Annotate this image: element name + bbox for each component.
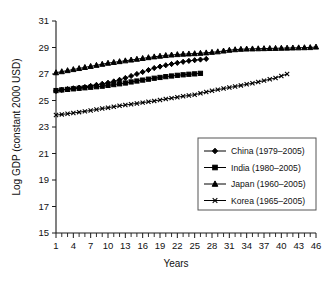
marker-square xyxy=(198,71,202,75)
marker-triangle xyxy=(152,54,157,59)
marker-square xyxy=(175,73,179,77)
marker-triangle xyxy=(290,45,295,50)
marker-diamond xyxy=(152,65,157,70)
marker-square xyxy=(89,85,93,89)
x-axis-tick-label: 25 xyxy=(189,240,200,251)
marker-square xyxy=(129,80,133,84)
marker-triangle xyxy=(302,45,307,50)
marker-diamond xyxy=(175,60,180,65)
marker-triangle xyxy=(157,53,162,58)
y-axis-tick-label: 21 xyxy=(38,148,49,159)
y-axis-tick-label: 29 xyxy=(38,42,49,53)
marker-square xyxy=(100,84,104,88)
marker-diamond xyxy=(134,71,139,76)
x-axis-tick-label: 7 xyxy=(88,240,93,251)
legend-item-label: China (1979–2005) xyxy=(231,146,305,156)
marker-triangle xyxy=(256,46,261,51)
marker-triangle xyxy=(163,53,168,58)
y-axis-label: Log GDP (constant 2000 USD) xyxy=(11,58,22,195)
y-axis-tick-label: 31 xyxy=(38,15,49,26)
marker-triangle xyxy=(82,64,87,69)
series-india xyxy=(54,71,203,92)
y-axis-tick-label: 17 xyxy=(38,201,49,212)
marker-triangle xyxy=(273,45,278,50)
series-line xyxy=(56,74,287,115)
marker-triangle xyxy=(250,46,255,51)
marker-triangle xyxy=(59,69,64,74)
marker-triangle xyxy=(169,52,174,57)
marker-diamond xyxy=(192,58,197,63)
x-axis-tick-label: 40 xyxy=(276,240,287,251)
marker-diamond xyxy=(158,64,163,69)
marker-square xyxy=(169,74,173,78)
marker-diamond xyxy=(123,75,128,80)
marker-triangle xyxy=(105,60,110,65)
x-axis-tick-label: 1 xyxy=(53,240,58,251)
marker-triangle xyxy=(53,70,58,75)
marker-square xyxy=(117,82,121,86)
marker-triangle xyxy=(221,48,226,53)
marker-square xyxy=(54,88,58,92)
marker-square xyxy=(123,81,127,85)
marker-square xyxy=(164,75,168,79)
y-axis-tick-label: 19 xyxy=(38,174,49,185)
marker-square xyxy=(141,78,145,82)
x-axis-tick-label: 19 xyxy=(155,240,166,251)
marker-triangle xyxy=(227,47,232,52)
x-axis-tick-label: 28 xyxy=(207,240,218,251)
marker-square xyxy=(112,83,116,87)
marker-triangle xyxy=(279,45,284,50)
marker-triangle xyxy=(123,58,128,63)
y-axis-tick-label: 25 xyxy=(38,95,49,106)
marker-square xyxy=(158,75,162,79)
chart-container: 1517192123252729311471013161922252831343… xyxy=(0,0,328,282)
marker-triangle xyxy=(313,44,318,49)
marker-square xyxy=(83,86,87,90)
marker-triangle xyxy=(100,61,105,66)
x-axis-tick-label: 16 xyxy=(137,240,148,251)
x-axis-tick-label: 31 xyxy=(224,240,235,251)
marker-diamond xyxy=(129,73,134,78)
marker-triangle xyxy=(175,52,180,57)
series-korea xyxy=(54,72,289,117)
marker-square xyxy=(71,87,75,91)
marker-diamond xyxy=(181,59,186,64)
marker-triangle xyxy=(71,67,76,72)
marker-triangle xyxy=(111,59,116,64)
marker-triangle xyxy=(209,49,214,54)
marker-square xyxy=(152,76,156,80)
chart-legend: China (1979–2005)India (1980–2005)Japan … xyxy=(198,138,316,210)
y-axis-tick-label: 23 xyxy=(38,121,49,132)
marker-triangle xyxy=(198,50,203,55)
x-axis-tick-label: 34 xyxy=(241,240,252,251)
marker-diamond xyxy=(204,56,209,61)
x-axis-tick-label: 4 xyxy=(71,240,76,251)
marker-triangle xyxy=(65,68,70,73)
marker-square xyxy=(77,86,81,90)
marker-diamond xyxy=(140,69,145,74)
x-axis-tick-label: 43 xyxy=(293,240,304,251)
marker-triangle xyxy=(285,45,290,50)
marker-triangle xyxy=(186,51,191,56)
marker-triangle xyxy=(146,55,151,60)
marker-diamond xyxy=(163,63,168,68)
marker-square xyxy=(106,83,110,87)
log-gdp-line-chart: 1517192123252729311471013161922252831343… xyxy=(0,0,328,282)
marker-triangle xyxy=(181,51,186,56)
y-axis-tick-label: 15 xyxy=(38,227,49,238)
marker-triangle xyxy=(134,56,139,61)
marker-triangle xyxy=(129,57,134,62)
marker-triangle xyxy=(215,49,220,54)
marker-triangle xyxy=(192,51,197,56)
marker-square xyxy=(135,79,139,83)
marker-square xyxy=(213,165,218,170)
marker-square xyxy=(193,72,197,76)
x-axis-tick-label: 22 xyxy=(172,240,183,251)
marker-triangle xyxy=(140,55,145,60)
x-axis-tick-label: 13 xyxy=(120,240,131,251)
legend-item-label: Japan (1960–2005) xyxy=(231,179,306,189)
x-axis-label: Years xyxy=(163,258,188,269)
marker-triangle xyxy=(261,46,266,51)
marker-square xyxy=(94,85,98,89)
marker-triangle xyxy=(238,46,243,51)
